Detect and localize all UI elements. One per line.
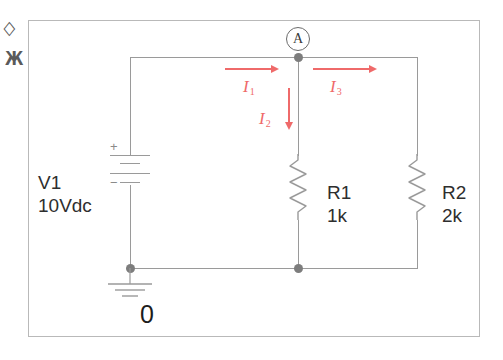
current-i2-symbol: I [259, 109, 265, 128]
current-i1-arrow-line [225, 68, 273, 70]
current-i1-symbol: I [243, 77, 249, 96]
battery-plate-long-2 [110, 173, 150, 174]
edge-mark-bottom-icon: Ж [5, 48, 23, 68]
wire-right-lower [417, 220, 418, 269]
junction-dot-node-a [294, 53, 303, 62]
current-i2-subscript: 2 [266, 118, 271, 129]
ground-symbol [100, 268, 160, 302]
resistor-r2-symbol [407, 152, 429, 224]
label-r2-ref: R2 [442, 182, 466, 204]
current-i1-label: I1 [243, 78, 254, 95]
resistor-r1-symbol [288, 152, 310, 224]
label-v1-value: 10Vdc [38, 195, 92, 217]
wire-left-upper [130, 57, 131, 156]
battery-plate-long-1 [110, 155, 150, 156]
label-ground-zero: 0 [140, 303, 154, 325]
wire-bottom [130, 268, 418, 269]
current-i2-arrow-line [288, 88, 290, 124]
label-r1-value: 1k [327, 205, 347, 227]
current-i3-arrow-line [313, 68, 371, 70]
current-i2-arrow-head-icon [285, 122, 293, 130]
current-i3-symbol: I [330, 77, 336, 96]
current-i1-arrow-head-icon [271, 65, 279, 73]
battery-plate-short-2 [120, 182, 140, 183]
wire-right-upper [417, 57, 418, 156]
battery-plus-sign: + [110, 140, 118, 153]
wire-center-upper [298, 57, 299, 156]
wire-left-lower [130, 185, 131, 269]
current-i3-subscript: 3 [337, 86, 342, 97]
node-a-marker: A [286, 27, 310, 51]
current-i1-subscript: 1 [250, 86, 255, 97]
battery-plate-short-1 [120, 163, 140, 164]
edge-mark-top-icon: ◇ [3, 18, 15, 37]
current-i2-label: I2 [259, 110, 270, 127]
label-r1-ref: R1 [327, 182, 351, 204]
wire-center-lower [298, 220, 299, 269]
label-v1-ref: V1 [38, 172, 61, 194]
wire-top [130, 57, 418, 58]
current-i3-label: I3 [330, 78, 341, 95]
current-i3-arrow-head-icon [369, 65, 377, 73]
junction-dot-bottom-center [294, 264, 303, 273]
circuit-diagram-canvas: ◇ Ж A + − V1 10Vdc R1 1k R2 2k [0, 0, 503, 360]
page-edge-marks: ◇ Ж [0, 18, 26, 88]
battery-minus-sign: − [110, 176, 118, 189]
label-r2-value: 2k [442, 205, 462, 227]
